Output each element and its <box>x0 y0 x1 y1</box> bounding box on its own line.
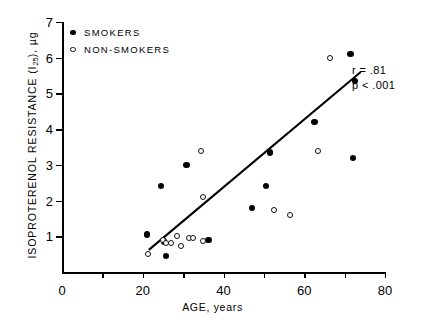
statistics-annotation: r = .81 p < .001 <box>352 63 395 93</box>
x-tick-label: 80 <box>378 284 392 297</box>
data-point <box>315 148 321 154</box>
y-tick-label: 3 <box>46 158 53 171</box>
x-tick <box>143 272 144 278</box>
data-point <box>145 251 151 257</box>
x-tick <box>224 272 225 278</box>
regression-line-segment <box>149 72 361 250</box>
legend-item-non-smokers: NON-SMOKERS <box>66 41 170 58</box>
y-tick-label: 7 <box>46 16 53 29</box>
x-tick <box>345 272 346 278</box>
data-point <box>200 238 206 244</box>
figure-scatter-isoproterenol-vs-age: ISOPROTERENOL RESISTANCE (I25), µg AGE, … <box>0 0 425 322</box>
data-point <box>267 149 273 155</box>
p-value: p < .001 <box>352 78 395 93</box>
data-point <box>249 205 255 211</box>
x-tick <box>264 272 265 278</box>
data-point <box>271 207 277 213</box>
y-tick-label: 4 <box>46 123 53 136</box>
correlation-value: r = .81 <box>352 63 395 78</box>
data-point <box>205 237 211 243</box>
y-tick-label: 1 <box>46 230 53 243</box>
data-point <box>144 231 150 237</box>
plot-area: 1234567 020406080 <box>62 22 385 272</box>
x-tick-label: 60 <box>297 284 311 297</box>
x-tick-label: 40 <box>216 284 230 297</box>
x-tick-label: 20 <box>136 284 150 297</box>
data-point <box>183 162 189 168</box>
open-circle-icon <box>66 47 80 52</box>
data-point <box>287 212 293 218</box>
y-tick-label: 2 <box>46 194 53 207</box>
data-point <box>198 148 204 154</box>
x-tick-label: 0 <box>58 284 65 297</box>
data-point <box>311 119 317 125</box>
x-tick <box>183 272 184 278</box>
legend-item-smokers: SMOKERS <box>66 24 170 41</box>
y-axis-title-tail: ), µg <box>26 32 38 58</box>
x-tick <box>304 272 305 278</box>
y-tick-label: 5 <box>46 87 53 100</box>
y-axis-title-main: ISOPROTERENOL RESISTANCE (I <box>26 66 38 259</box>
data-point <box>350 155 356 161</box>
legend: SMOKERS NON-SMOKERS <box>66 24 170 58</box>
legend-label-smokers: SMOKERS <box>84 27 141 38</box>
filled-circle-icon <box>66 30 80 35</box>
y-tick-label: 6 <box>46 51 53 64</box>
regression-line <box>62 22 385 272</box>
data-point <box>200 194 206 200</box>
y-axis-title-subscript: 25 <box>31 57 40 65</box>
legend-label-non-smokers: NON-SMOKERS <box>84 44 170 55</box>
x-tick <box>102 272 103 278</box>
x-axis-title: AGE, years <box>0 301 425 313</box>
y-axis-title: ISOPROTERENOL RESISTANCE (I25), µg <box>26 20 40 270</box>
x-tick <box>385 272 386 278</box>
